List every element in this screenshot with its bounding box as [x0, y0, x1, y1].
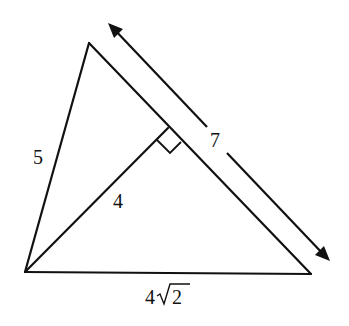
- base-radicand: 2: [172, 286, 182, 308]
- dimension-line-upper: [113, 28, 207, 127]
- hypotenuse-dimension-label: 7: [210, 129, 220, 151]
- triangle-diagram: 5 4 7 4 2: [0, 0, 349, 326]
- altitude-line: [25, 128, 168, 272]
- dimension-line-lower: [227, 153, 325, 256]
- base-coefficient: 4: [145, 286, 155, 308]
- left-side-label: 5: [33, 146, 43, 168]
- base-edge: [25, 272, 311, 274]
- right-side-edge: [89, 43, 311, 274]
- base-label: 4 2: [145, 284, 190, 308]
- altitude-label: 4: [113, 190, 123, 212]
- right-angle-marker: [157, 140, 181, 153]
